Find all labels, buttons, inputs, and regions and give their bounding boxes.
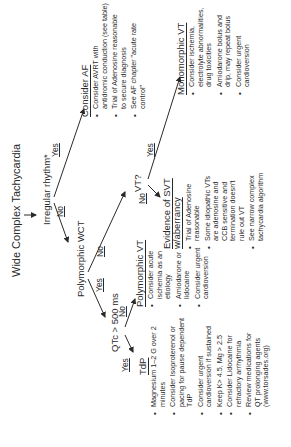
- bullet-af-3: See AF chapter "acute ratecontrol": [130, 3, 147, 117]
- bullet-svt-2: Some idiopathic VTsare adenosine andCCB …: [204, 173, 246, 249]
- bullet-tdp-4: Keep K> 4.5, Mg > 2.5: [216, 318, 224, 415]
- bullet-mvt-3: Consider urgentcardioversion: [235, 8, 252, 96]
- edge-label-qtc-no: No: [117, 306, 127, 317]
- bullet-tdp-6: Review medications forQT prolonging agen…: [245, 318, 270, 415]
- wct-flowchart: Wide Complex Tachycardia Irregular rhyth…: [0, 0, 291, 447]
- bullet-pvt-3: Consider urgentcardioversion: [194, 240, 211, 307]
- bullet-af-2: Trial of Adenosine reasonableto secure d…: [111, 3, 128, 117]
- heading-svt-line2: w/aberrancy: [172, 173, 182, 249]
- bullet-tdp-1: Magnesium 1–2 G over 2minutes: [150, 318, 167, 415]
- heading-monomorphic-vt: Monomorphic VT: [176, 8, 186, 96]
- decision-vt: VT?: [133, 175, 143, 192]
- decision-qtc-500: QTc > 500 ms: [110, 293, 120, 352]
- edge-label-vt-no: No: [137, 193, 147, 204]
- edge-label-irregular-no: No: [55, 206, 65, 217]
- box-consider-af: Consider AF Consider AVRT withantidromic…: [80, 3, 149, 117]
- node-polymorphic-wct: Polymorphic WCT: [76, 220, 86, 297]
- edge-label-qtc-yes: Yes: [120, 358, 130, 372]
- heading-consider-af: Consider AF: [80, 3, 90, 117]
- heading-polymorphic-vt: Polymorphic VT: [135, 240, 145, 307]
- bullet-pvt-2: Amiodarone orlidocaine: [175, 240, 192, 307]
- root-node-wide-complex-tachycardia: Wide Complex Tachycardia: [10, 144, 22, 277]
- edge-label-vt-yes: Yes: [145, 143, 155, 157]
- bullet-pvt-1: Consider acuteischemia as anetiology: [147, 240, 172, 307]
- bullet-tdp-5: Consider Lidocaine forrefractory arrhyth…: [226, 318, 243, 415]
- decision-irregular-rhythm: Irregular rhythm*: [42, 154, 52, 225]
- bullet-mvt-1: Consider ischemia,electrolyte abnormalit…: [188, 8, 213, 96]
- bullet-af-1: Consider AVRT withantidromic conduction …: [92, 3, 109, 117]
- box-tdp: TdP Magnesium 1–2 G over 2minutes Consid…: [138, 318, 273, 415]
- box-polymorphic-vt: Polymorphic VT Consider acuteischemia as…: [135, 240, 213, 307]
- box-monomorphic-vt: Monomorphic VT Consider ischemia,electro…: [176, 8, 254, 96]
- edge-label-irregular-yes: Yes: [50, 143, 60, 157]
- heading-tdp: TdP: [138, 318, 148, 375]
- bullet-svt-3: See narrow complextachycardia algorithm: [248, 173, 265, 249]
- edge-label-poly-yes: Yes: [94, 278, 104, 292]
- bullet-tdp-2: Consider Isoproterenol orpacing for paus…: [169, 318, 194, 415]
- box-svt-aberrancy: Evidence of SVT w/aberrancy Trial of Ade…: [162, 173, 267, 249]
- bullet-tdp-3: Consider urgentcardioversion if sustaine…: [197, 318, 214, 415]
- edge-label-poly-no: No: [95, 246, 105, 257]
- bullet-svt-1: Trial of Adenosinereasonable: [185, 173, 202, 249]
- bullet-mvt-2: Amiodarone bolus anddrip, may repeat bol…: [216, 8, 233, 96]
